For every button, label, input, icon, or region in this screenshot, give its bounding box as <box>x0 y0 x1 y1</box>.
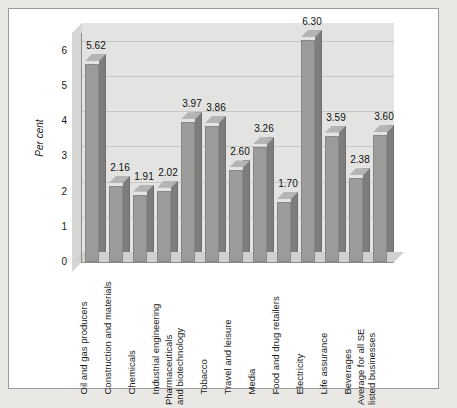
bar-side-face <box>339 126 346 252</box>
bar-value-label: 5.62 <box>86 41 105 51</box>
category-label-line: Beverages <box>343 349 354 394</box>
category-label-line: Travel and leisure <box>223 319 234 394</box>
y-tick-label: 3 <box>61 151 67 161</box>
bar <box>85 23 99 262</box>
category-label: Tobacco <box>199 359 210 394</box>
x-axis-line <box>81 262 394 263</box>
category-label: Media <box>247 369 258 395</box>
y-tick-label: 6 <box>61 46 67 56</box>
bar-front-face <box>181 122 195 262</box>
bar <box>325 23 339 262</box>
category-label-line: and biotechnology <box>175 328 186 405</box>
bar-side-face <box>267 137 274 252</box>
category-label: Travel and leisure <box>223 319 234 394</box>
category-label: Oil and gas producers <box>79 302 90 395</box>
category-label: Electricity <box>295 354 306 395</box>
category-label-line: Pharmaceuticals <box>164 328 175 405</box>
bar-front-face <box>157 191 171 262</box>
bar <box>277 23 291 262</box>
y-axis-title: Per cent <box>34 119 45 156</box>
category-label-line: Life assurance <box>319 333 330 395</box>
chart-page: Per cent 0123456 5.622.161.912.023.973.8… <box>0 0 457 408</box>
bar <box>373 23 387 262</box>
category-label-line: Construction and materials <box>103 282 114 395</box>
bar <box>133 23 147 262</box>
bar-side-face <box>171 181 178 252</box>
bar <box>157 23 171 262</box>
bar-front-face <box>85 64 99 262</box>
bar-side-face <box>363 168 370 252</box>
category-label: Pharmaceuticalsand biotechnology <box>164 328 185 405</box>
plot-area: 0123456 5.622.161.912.023.973.862.603.26… <box>72 23 394 262</box>
bar <box>301 23 315 262</box>
bar-value-label: 2.02 <box>158 168 177 178</box>
bar-front-face <box>109 186 123 262</box>
category-label: Average for all SElisted businesses <box>356 329 377 405</box>
bar-front-face <box>133 195 147 262</box>
category-label-line: Electricity <box>295 354 306 395</box>
bar-value-label: 1.91 <box>134 172 153 182</box>
bar-value-label: 3.86 <box>206 103 225 113</box>
category-label-line: Media <box>247 369 258 395</box>
y-tick-label: 0 <box>61 257 67 267</box>
bar-front-face <box>253 147 267 262</box>
bar <box>205 23 219 262</box>
bar-side-face <box>195 112 202 252</box>
category-label: Construction and materials <box>103 282 114 395</box>
bar-value-label: 3.59 <box>326 113 345 123</box>
bar-value-label: 2.60 <box>230 147 249 157</box>
category-label: Chemicals <box>127 350 138 394</box>
bar-value-label: 2.16 <box>110 163 129 173</box>
bar-side-face <box>99 54 106 252</box>
category-label-line: Industrial engineering <box>151 304 162 395</box>
bar-front-face <box>205 126 219 262</box>
bar-side-face <box>219 116 226 252</box>
category-label: Industrial engineering <box>151 304 162 395</box>
bar-side-face <box>315 30 322 252</box>
bar-side-face <box>123 176 130 252</box>
category-label: Food and drug retailers <box>271 296 282 394</box>
category-label-line: Oil and gas producers <box>79 302 90 395</box>
bar-front-face <box>277 202 291 262</box>
y-tick-label: 4 <box>61 116 67 126</box>
bar-value-label: 1.70 <box>278 179 297 189</box>
bar <box>109 23 123 262</box>
y-tick-label: 5 <box>61 81 67 91</box>
bar-front-face <box>373 135 387 262</box>
category-label-line: Tobacco <box>199 359 210 394</box>
y-axis-line <box>81 33 82 262</box>
bar-value-label: 3.60 <box>374 112 393 122</box>
y-tick-label: 2 <box>61 187 67 197</box>
bar-value-label: 3.97 <box>182 99 201 109</box>
bar <box>229 23 243 262</box>
bar-side-face <box>387 125 394 252</box>
category-label-line: Food and drug retailers <box>271 296 282 394</box>
bar-side-face <box>147 185 154 252</box>
category-label-line: Average for all SE <box>356 329 367 405</box>
bar <box>253 23 267 262</box>
y-tick-label: 1 <box>61 222 67 232</box>
category-label: Life assurance <box>319 333 330 395</box>
bar-value-label: 6.30 <box>302 17 321 27</box>
bar-value-label: 3.26 <box>254 124 273 134</box>
bar-side-face <box>243 160 250 252</box>
bar-front-face <box>229 170 243 262</box>
category-label-line: Chemicals <box>127 350 138 394</box>
chart-frame: Per cent 0123456 5.622.161.912.023.973.8… <box>8 8 439 389</box>
bar-front-face <box>349 178 363 262</box>
bar <box>349 23 363 262</box>
category-label-line: listed businesses <box>367 329 378 405</box>
category-label: Beverages <box>343 349 354 394</box>
bar-front-face <box>325 136 339 262</box>
bar-front-face <box>301 40 315 262</box>
bar-side-face <box>291 192 298 252</box>
bar-value-label: 2.38 <box>350 155 369 165</box>
bar <box>181 23 195 262</box>
